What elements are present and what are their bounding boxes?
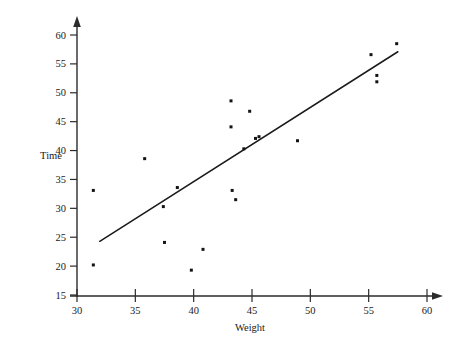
y-tick-label: 20 [56,261,67,272]
data-point [143,157,146,160]
y-tick-label: 60 [56,30,67,41]
regression-line-segment [100,52,398,242]
y-tick-label: 50 [56,87,67,98]
y-tick-label: 25 [56,232,67,243]
y-tick-label: 30 [56,203,67,214]
data-point [395,42,398,45]
regression-line [100,52,398,242]
data-point [296,139,299,142]
data-point [258,135,261,138]
x-axis-ticks: 30354045505560 [72,289,433,316]
data-point [202,248,205,251]
x-axis-arrowhead [432,292,443,300]
data-point [92,189,95,192]
data-point [163,241,166,244]
data-point [92,263,95,266]
data-points [92,42,398,271]
x-tick-label: 60 [422,305,433,316]
x-tick-label: 55 [363,305,374,316]
x-tick-label: 35 [130,305,141,316]
x-tick-label: 40 [188,305,199,316]
y-tick-label: 55 [56,58,67,69]
data-point [248,110,251,113]
y-axis-arrowhead [73,16,81,27]
data-point [375,74,378,77]
data-point [231,189,234,192]
y-tick-label: 35 [56,174,67,185]
data-point [162,205,165,208]
data-point [375,80,378,83]
x-tick-label: 50 [305,305,316,316]
data-point [230,125,233,128]
plot-canvas: 15202530354045505560 30354045505560 Time… [0,0,460,347]
y-axis-ticks: 15202530354045505560 [56,30,78,301]
data-point [190,269,193,272]
data-point [370,53,373,56]
data-point [254,137,257,140]
y-tick-label: 45 [56,116,67,127]
data-point [230,99,233,102]
data-point [242,147,245,150]
x-axis-title: Weight [235,322,265,333]
y-tick-label: 15 [56,290,67,301]
y-axis-title: Time [40,150,62,161]
scatter-plot-figure: 15202530354045505560 30354045505560 Time… [0,0,460,347]
x-tick-label: 45 [247,305,258,316]
x-tick-label: 30 [72,305,83,316]
data-point [176,186,179,189]
data-point [234,198,237,201]
